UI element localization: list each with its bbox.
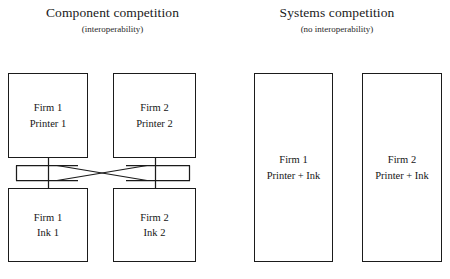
box-firm2-system-line2: Printer + Ink <box>375 168 429 183</box>
box-firm1-system[interactable]: Firm 1 Printer + Ink <box>254 73 333 262</box>
box-firm2-printer[interactable]: Firm 2 Printer 2 <box>113 73 196 158</box>
box-firm2-ink-line1: Firm 2 <box>140 210 168 225</box>
box-firm2-system[interactable]: Firm 2 Printer + Ink <box>362 73 442 262</box>
box-firm1-printer[interactable]: Firm 1 Printer 1 <box>8 73 88 158</box>
box-firm1-system-line1: Firm 1 <box>279 152 307 167</box>
box-firm2-system-line1: Firm 2 <box>388 152 416 167</box>
box-firm1-ink-line1: Firm 1 <box>34 210 62 225</box>
box-firm2-ink-line2: Ink 2 <box>144 225 166 240</box>
box-firm1-system-line2: Printer + Ink <box>267 168 321 183</box>
right-panel-subtitle: (no interoperability) <box>228 24 446 34</box>
box-firm1-ink-line2: Ink 1 <box>37 225 59 240</box>
connector-cross-p2-to-ink1 <box>57 166 147 181</box>
box-firm1-ink[interactable]: Firm 1 Ink 1 <box>8 188 88 262</box>
box-firm2-printer-line2: Printer 2 <box>136 116 172 131</box>
box-firm1-printer-line2: Printer 1 <box>30 116 66 131</box>
box-firm1-printer-line1: Firm 1 <box>34 100 62 115</box>
diagram-canvas: Component competition (interoperability)… <box>0 0 450 279</box>
box-firm2-ink[interactable]: Firm 2 Ink 2 <box>113 188 196 262</box>
right-panel-title: Systems competition <box>228 5 446 21</box>
connector-cross-p1-to-ink2 <box>57 166 147 181</box>
left-panel-subtitle: (interoperability) <box>0 24 225 34</box>
box-firm2-printer-line1: Firm 2 <box>140 100 168 115</box>
left-panel-title: Component competition <box>0 5 225 21</box>
